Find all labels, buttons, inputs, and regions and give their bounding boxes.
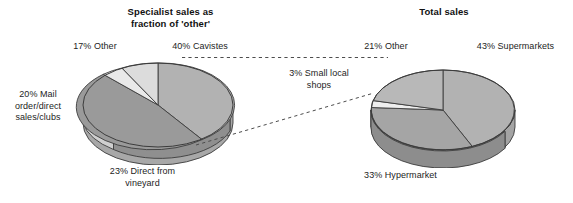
pie-chart-figure: Specialist sales as fraction of 'other' … — [0, 0, 573, 203]
left-label-vineyard: 23% Direct from vineyard — [83, 166, 202, 189]
right-label-supermarkets: 43% Supermarkets — [459, 41, 572, 53]
right-label-hypermarket: 33% Hypermarket — [344, 170, 457, 182]
right-label-small-local-shops: 3% Small local shops — [272, 68, 366, 91]
left-label-other: 17% Other — [57, 41, 133, 53]
left-label-cavistes: 40% Cavistes — [154, 41, 246, 53]
left-label-mail-order: 20% Mail order/direct sales/clubs — [2, 89, 74, 124]
left-chart-title: Specialist sales as fraction of 'other' — [93, 6, 248, 29]
right-label-other: 21% Other — [349, 41, 423, 53]
right-chart-title: Total sales — [396, 6, 492, 18]
